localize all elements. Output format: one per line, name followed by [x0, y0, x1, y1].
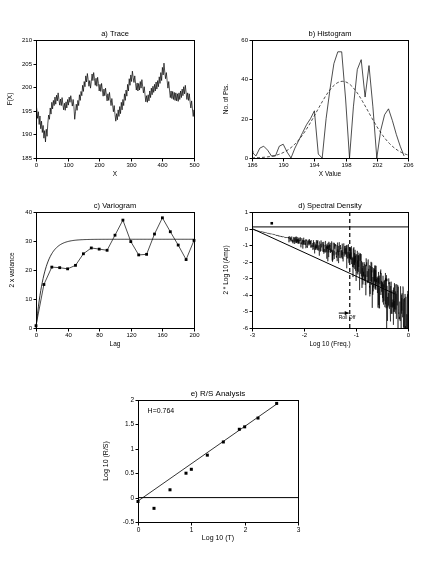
chart-histogram	[214, 20, 428, 195]
panel-spectral-density	[214, 190, 428, 365]
panel-trace	[0, 20, 214, 195]
figure-canvas-root	[0, 0, 428, 566]
chart-variogram	[0, 190, 214, 365]
chart-spectral-density	[214, 190, 428, 365]
panel-histogram	[214, 20, 428, 195]
chart-trace	[0, 20, 214, 195]
chart-rs-analysis	[80, 370, 360, 566]
panel-rs-analysis	[80, 370, 360, 566]
panel-variogram	[0, 190, 214, 365]
